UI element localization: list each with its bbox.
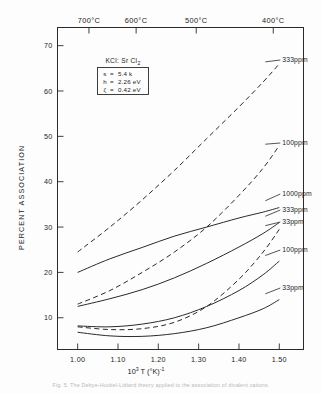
curve-1000ppm (78, 208, 280, 273)
param-symbol: h (103, 78, 107, 85)
param-equals: = (110, 78, 114, 85)
y-axis-title: PERCENT ASSOCIATION (17, 145, 26, 250)
parameter-box-title: KCl: Sr Cl2 (105, 57, 140, 66)
param-equals: = (110, 70, 114, 77)
x-tick-label: 1.40 (231, 355, 246, 364)
curve-100ppm-solid (78, 261, 280, 327)
leader-1000ppm (265, 194, 280, 201)
x-title-t: T (°K) (139, 367, 160, 376)
x-tick-label: 1.10 (110, 355, 125, 364)
x-tick-label: 1.20 (151, 355, 166, 364)
top-tick-label: 500°C (185, 16, 208, 25)
y-tick-label: 70 (44, 41, 53, 50)
series-label-1000ppm: 1000ppm (282, 190, 312, 198)
x-tick-label: 1.30 (191, 355, 206, 364)
x-axis-labels: 1.001.101.201.301.401.50 (70, 355, 287, 364)
param-value: 0.42 eV (118, 86, 141, 93)
y-tick-label: 20 (44, 268, 53, 277)
top-tick-label: 600°C (125, 16, 148, 25)
x-title-main: 10 (128, 367, 136, 376)
series-label-33ppm-dashed: 33ppm (282, 218, 304, 226)
curve-100ppm-dashed (78, 145, 280, 304)
top-tick-label: 400°C (262, 16, 285, 25)
y-axis-ticks (58, 46, 64, 318)
param-equals: = (110, 86, 114, 93)
data-curves (78, 64, 280, 337)
leader-100ppm-dashed (265, 143, 280, 144)
y-tick-label: 30 (44, 223, 53, 232)
x-tick-label: 1.50 (272, 355, 287, 364)
x-title-inv: -1 (160, 366, 165, 372)
series-label-33ppm-solid: 33ppm (282, 284, 304, 292)
top-tick-label: 700°C (78, 16, 101, 25)
plot-frame (58, 28, 304, 350)
leader-333ppm (265, 60, 280, 62)
svg-text:103 T (°K)-1: 103 T (°K)-1 (128, 366, 165, 376)
top-axis-labels: 700°C600°C500°C400°C (78, 16, 285, 25)
association-plot: 700°C600°C500°C400°C 1.001.101.201.301.4… (0, 0, 322, 394)
y-tick-label: 50 (44, 132, 53, 141)
leader-33ppm-solid (265, 288, 280, 294)
param-symbol: s (103, 70, 106, 77)
series-label-100ppm-dashed: 100ppm (282, 139, 308, 147)
series-labels: 333ppm100ppm1000ppm333ppm33ppm100ppm33pp… (265, 56, 312, 293)
series-label-333ppm: 333ppm (282, 56, 308, 64)
curve-33ppm-solid (78, 300, 280, 337)
param-symbol: ζ (104, 86, 107, 94)
figure-container: 700°C600°C500°C400°C 1.001.101.201.301.4… (0, 0, 322, 394)
y-tick-label: 60 (44, 87, 53, 96)
y-tick-label: 40 (44, 177, 53, 186)
y-axis-labels: 10203040506070 (44, 41, 53, 322)
x-axis-ticks (78, 344, 280, 350)
param-value: 2.26 eV (118, 78, 141, 85)
param-value: 5.4 k (118, 70, 133, 77)
series-label-333ppm-solid: 333ppm (282, 206, 308, 214)
top-axis-ticks (89, 28, 273, 34)
figure-caption: Fig. 5. The Debye-Huckel-Lidiard theory … (52, 382, 269, 388)
leader-100ppm-solid (265, 250, 280, 256)
series-label-100ppm-solid: 100ppm (282, 246, 308, 254)
x-tick-label: 1.00 (70, 355, 85, 364)
x-axis-title: 103 T (°K)-1 (128, 366, 165, 376)
chart-canvas: 700°C600°C500°C400°C 1.001.101.201.301.4… (0, 0, 322, 394)
y-tick-label: 10 (44, 313, 53, 322)
parameter-box: KCl: Sr Cl2 s=5.4 kh=2.26 eVζ=0.42 eV (98, 57, 149, 95)
